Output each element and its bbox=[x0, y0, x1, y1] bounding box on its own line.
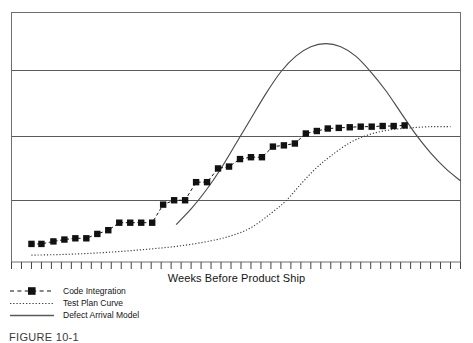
data-point-marker bbox=[72, 235, 78, 241]
data-point-marker bbox=[182, 197, 188, 203]
data-point-marker bbox=[259, 154, 265, 160]
x-axis-ticks bbox=[12, 262, 461, 269]
data-point-marker bbox=[303, 130, 309, 136]
data-point-marker bbox=[50, 238, 56, 244]
legend-swatch-dotted-icon bbox=[9, 297, 55, 309]
chart-canvas bbox=[0, 0, 473, 296]
data-point-marker bbox=[127, 220, 133, 226]
data-point-marker bbox=[248, 154, 254, 160]
data-point-marker bbox=[390, 123, 396, 129]
data-point-marker bbox=[325, 125, 331, 131]
data-point-marker bbox=[281, 142, 287, 148]
data-point-marker bbox=[149, 220, 155, 226]
data-point-marker bbox=[160, 201, 166, 207]
legend-swatch-solid-icon bbox=[9, 309, 55, 321]
data-point-marker bbox=[358, 123, 364, 129]
data-point-marker bbox=[369, 123, 375, 129]
chart-legend: Code Integration Test Plan Curve Defect … bbox=[9, 285, 249, 321]
x-axis-title: Weeks Before Product Ship bbox=[0, 272, 473, 284]
data-point-marker bbox=[105, 227, 111, 233]
data-point-marker bbox=[270, 143, 276, 149]
data-point-marker bbox=[116, 220, 122, 226]
data-point-marker bbox=[38, 241, 44, 247]
data-point-marker bbox=[28, 241, 34, 247]
data-point-marker bbox=[94, 231, 100, 237]
data-point-marker bbox=[138, 220, 144, 226]
legend-item-defect-arrival-model[interactable]: Defect Arrival Model bbox=[9, 309, 249, 321]
data-point-marker bbox=[401, 122, 407, 128]
plot-frame bbox=[12, 13, 461, 263]
figure-caption: FIGURE 10-1 bbox=[9, 331, 79, 343]
data-point-marker bbox=[336, 125, 342, 131]
data-point-marker bbox=[237, 156, 243, 162]
data-point-marker bbox=[193, 179, 199, 185]
data-point-marker bbox=[83, 235, 89, 241]
data-point-marker bbox=[347, 124, 353, 130]
data-point-marker bbox=[379, 123, 385, 129]
data-point-marker bbox=[215, 165, 221, 171]
legend-item-code-integration[interactable]: Code Integration bbox=[9, 285, 249, 297]
data-point-marker bbox=[204, 179, 210, 185]
legend-label-defect-arrival-model: Defect Arrival Model bbox=[63, 309, 139, 321]
data-point-marker bbox=[314, 128, 320, 134]
legend-label-code-integration: Code Integration bbox=[63, 285, 126, 297]
data-point-marker bbox=[61, 236, 67, 242]
legend-item-test-plan-curve[interactable]: Test Plan Curve bbox=[9, 297, 249, 309]
data-point-marker bbox=[226, 163, 232, 169]
legend-swatch-dashed-square-icon bbox=[9, 285, 55, 297]
data-point-marker bbox=[292, 140, 298, 146]
data-point-marker bbox=[171, 197, 177, 203]
legend-label-test-plan-curve: Test Plan Curve bbox=[63, 297, 123, 309]
